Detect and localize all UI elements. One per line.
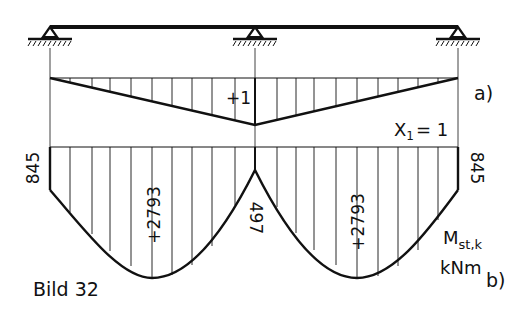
part-b-label: b) xyxy=(486,269,505,291)
unit-load-label: X1= 1 xyxy=(394,119,448,143)
figure-caption: Bild 32 xyxy=(33,278,99,300)
beam-diagram: +1 a) X1= 1 xyxy=(0,0,520,314)
influence-diagram-a xyxy=(50,78,458,125)
influence-value-label: +1 xyxy=(226,88,251,108)
right-span-moment-value: +2793 xyxy=(348,193,368,251)
part-a-label: a) xyxy=(474,82,493,104)
middle-support-icon xyxy=(233,27,277,46)
right-end-moment-value: 845 xyxy=(467,152,487,184)
right-support-icon xyxy=(436,27,480,46)
left-support-icon xyxy=(28,27,72,46)
moment-unit-label: kNm xyxy=(440,257,481,278)
left-end-moment-value: 845 xyxy=(23,152,43,184)
support-moment-value: 497 xyxy=(246,202,266,234)
left-span-moment-value: +2793 xyxy=(144,186,164,244)
moment-symbol-label: Mst,k xyxy=(443,227,483,252)
